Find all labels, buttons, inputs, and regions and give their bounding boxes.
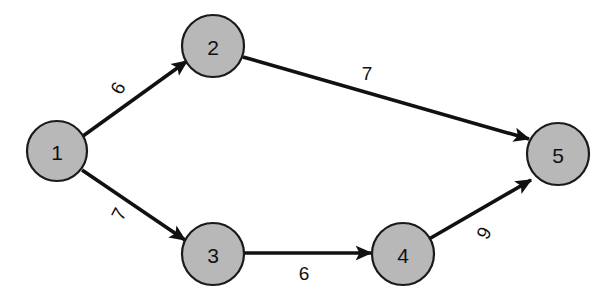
node-5[interactable]: 5: [527, 123, 589, 185]
node-4[interactable]: 4: [372, 223, 434, 285]
node-3-label: 3: [207, 244, 219, 267]
node-1-label: 1: [51, 141, 63, 164]
node-5-label: 5: [552, 144, 564, 167]
edge-weight-1-2: 6: [106, 78, 130, 97]
edge-weights-layer: 6 7 7 6 9: [106, 63, 496, 284]
node-2[interactable]: 2: [182, 15, 244, 77]
graph-figure: 6 7 7 6 9 1 2 3 4: [0, 0, 611, 301]
nodes-layer: 1 2 3 4 5: [27, 15, 589, 285]
edge-2-to-5[interactable]: [243, 57, 529, 139]
node-4-label: 4: [397, 244, 409, 267]
node-1[interactable]: 1: [27, 121, 87, 181]
edge-weight-3-4: 6: [299, 263, 310, 284]
edge-1-to-2[interactable]: [83, 61, 187, 136]
node-2-label: 2: [207, 36, 219, 59]
node-3[interactable]: 3: [182, 223, 244, 285]
edge-weight-1-3: 7: [107, 204, 131, 223]
edge-weight-4-5: 9: [472, 223, 496, 242]
edge-weight-2-5: 7: [362, 63, 373, 84]
edges-layer: [82, 57, 531, 253]
graph-canvas: 6 7 7 6 9 1 2 3 4: [0, 0, 611, 301]
edge-1-to-3[interactable]: [82, 170, 185, 240]
